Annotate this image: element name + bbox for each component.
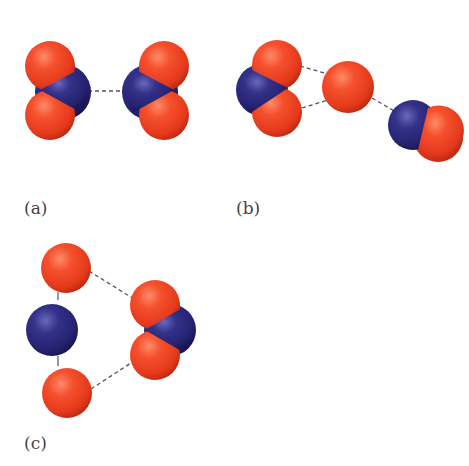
no2-molecule — [130, 280, 196, 380]
dashed-bond — [300, 66, 328, 74]
dashed-bond — [302, 100, 328, 108]
panel-label-b: (b) — [236, 198, 260, 218]
oxygen-atom-single — [322, 61, 374, 113]
panel-a: (a) — [24, 41, 189, 218]
panel-label-c: (c) — [24, 433, 47, 453]
oxygen-atom — [42, 368, 92, 418]
oxygen-atom — [41, 243, 91, 293]
molecule-diagram: (a) (b) (c — [0, 0, 469, 466]
panel-label-a: (a) — [24, 198, 47, 218]
dashed-bond — [91, 361, 134, 389]
panel-b: (b) — [236, 40, 464, 218]
no2-molecule-right — [122, 41, 189, 140]
dashed-bond — [89, 271, 134, 299]
no2-molecule — [236, 40, 302, 137]
panel-c: (c) — [24, 243, 196, 453]
nitrogen-atom — [26, 304, 78, 356]
no2-molecule-left — [25, 41, 91, 140]
dashed-bond — [372, 98, 396, 112]
no-molecule — [388, 100, 464, 162]
